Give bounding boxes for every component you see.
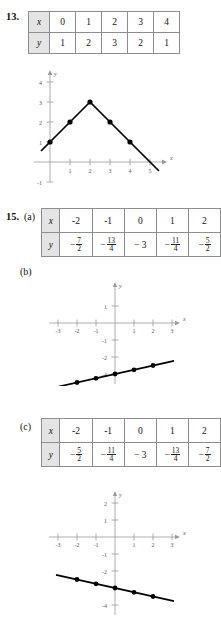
y-axis-arrow xyxy=(113,282,117,287)
table-row-label-x: x xyxy=(42,209,60,233)
problem-15-number: 15. xyxy=(6,211,19,222)
data-point xyxy=(132,590,137,595)
problem-13-plot-line xyxy=(41,102,159,171)
problem-15-part-c-label: (c) xyxy=(20,421,31,432)
y-axis-name: y xyxy=(53,71,57,77)
table-cell: −72 xyxy=(188,443,220,467)
y-tick-label: 2 xyxy=(104,501,107,507)
x-tick-label: 3 xyxy=(171,328,174,334)
y-tick-label: -1 xyxy=(37,180,42,186)
x-tick-label: -1 xyxy=(94,328,99,334)
data-point xyxy=(47,139,52,144)
table-row: x -2 -1 0 1 2 xyxy=(42,209,221,233)
x-tick-label: 2 xyxy=(152,328,155,334)
y-tick-label: 4 xyxy=(39,80,42,86)
y-tick-label: -1 xyxy=(102,552,107,558)
data-point xyxy=(87,99,92,104)
data-point xyxy=(67,119,72,124)
table-row-label-x: x xyxy=(29,12,50,33)
textbook-page: 13. x 0 1 2 3 4 y 1 2 3 2 1 xyxy=(0,0,221,628)
table-cell: −134 xyxy=(156,443,188,467)
problem-15b-graph: -3 -2 -1 1 2 3 1 -1 -2 -4 x y xyxy=(37,278,197,386)
x-axis-name: x xyxy=(182,316,186,322)
table-cell: 0 xyxy=(124,419,156,443)
y-tick-label: -2 xyxy=(102,355,107,361)
y-tick-label: 1 xyxy=(104,304,107,310)
problem-13-graph: 1 2 3 4 5 4 3 2 1 -1 x y xyxy=(28,68,178,186)
data-point xyxy=(75,380,80,385)
table-cell: − 3 xyxy=(124,443,156,467)
table-cell: −114 xyxy=(156,233,188,257)
table-cell: 0 xyxy=(50,12,76,33)
table-cell: 1 xyxy=(50,33,76,54)
table-cell: 2 xyxy=(188,419,220,443)
x-axis-arrow xyxy=(175,321,180,325)
x-tick-label: 1 xyxy=(133,542,136,548)
table-cell: -1 xyxy=(92,419,124,443)
table-row: y −52 −114 − 3 −134 −72 xyxy=(42,443,221,467)
problem-15c-table: x -2 -1 0 1 2 y −52 −114 − 3 −134 −72 xyxy=(41,418,221,467)
data-point xyxy=(94,581,99,586)
table-row: x 0 1 2 3 4 xyxy=(29,12,180,33)
y-tick-label: 3 xyxy=(39,100,42,106)
x-axis-name: x xyxy=(182,530,186,536)
x-tick-label: 3 xyxy=(109,168,112,174)
table-cell: 1 xyxy=(156,209,188,233)
x-tick-label: -2 xyxy=(75,542,80,548)
table-row: x -2 -1 0 1 2 xyxy=(42,419,221,443)
table-cell: 3 xyxy=(102,33,128,54)
table-cell: −114 xyxy=(92,443,124,467)
problem-13-table: x 0 1 2 3 4 y 1 2 3 2 1 xyxy=(28,11,180,54)
problem-15-part-a-label: (a) xyxy=(24,211,35,222)
graph-13-svg: 1 2 3 4 5 4 3 2 1 -1 x y xyxy=(28,68,178,186)
table-row: y 1 2 3 2 1 xyxy=(29,33,180,54)
x-tick-label: 4 xyxy=(129,168,132,174)
y-axis-name: y xyxy=(118,492,122,498)
data-point xyxy=(113,372,118,377)
table-cell: 2 xyxy=(128,33,154,54)
data-point xyxy=(151,594,156,599)
y-tick-label: -2 xyxy=(102,569,107,575)
x-tick-label: -1 xyxy=(94,542,99,548)
x-tick-label: 1 xyxy=(69,168,72,174)
data-point xyxy=(75,577,80,582)
x-tick-label: 1 xyxy=(133,328,136,334)
table-cell: 0 xyxy=(124,209,156,233)
problem-15d-graph: -3 -2 -1 1 2 3 2 1 -1 -2 -4 x y xyxy=(37,487,197,623)
x-tick-label: -2 xyxy=(75,328,80,334)
data-point xyxy=(107,119,112,124)
y-axis-name: y xyxy=(118,283,122,289)
problem-15-part-b-label: (b) xyxy=(20,266,32,277)
y-tick-label: 1 xyxy=(39,140,42,146)
table-cell: 4 xyxy=(154,12,180,33)
x-tick-label: -3 xyxy=(56,542,61,548)
table-cell: 2 xyxy=(76,33,102,54)
table-row-label-y: y xyxy=(42,233,60,257)
data-point xyxy=(151,363,156,368)
data-point xyxy=(132,367,137,372)
table-cell: -2 xyxy=(60,419,92,443)
table-cell: 3 xyxy=(128,12,154,33)
problem-13-number: 13. xyxy=(6,11,19,22)
data-point xyxy=(113,586,118,591)
x-tick-label: 5 xyxy=(149,168,152,174)
table-cell: 1 xyxy=(156,419,188,443)
table-row-label-y: y xyxy=(29,33,50,54)
table-cell: −72 xyxy=(60,233,92,257)
y-tick-label: 2 xyxy=(39,120,42,126)
table-row-label-y: y xyxy=(42,443,60,467)
table-cell: 2 xyxy=(188,209,220,233)
y-tick-label: -4 xyxy=(102,603,107,609)
x-axis-arrow xyxy=(162,160,167,165)
table-cell: 2 xyxy=(102,12,128,33)
x-tick-label: 2 xyxy=(152,542,155,548)
y-tick-label: 1 xyxy=(104,518,107,524)
data-point xyxy=(127,139,132,144)
table-cell: -2 xyxy=(60,209,92,233)
x-tick-label: 3 xyxy=(171,542,174,548)
table-cell: − 3 xyxy=(124,233,156,257)
y-tick-label: -1 xyxy=(102,338,107,344)
y-axis-arrow xyxy=(48,70,53,75)
problem-15a-table: x -2 -1 0 1 2 y −72 −134 − 3 −114 −52 xyxy=(41,208,221,257)
table-cell: -1 xyxy=(92,209,124,233)
